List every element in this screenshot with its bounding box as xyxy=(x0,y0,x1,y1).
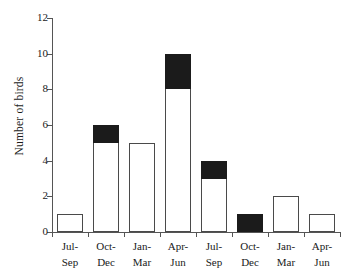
bar-chart: Number of birds 024681012 Jul-SepOct-Dec… xyxy=(0,0,356,280)
x-tick-label-line1: Jan- xyxy=(124,238,160,254)
x-tick-mark xyxy=(232,232,233,237)
x-tick-label-line1: Jul- xyxy=(196,238,232,254)
bar xyxy=(237,214,263,232)
x-tick-label: Apr-Jun xyxy=(304,238,340,270)
x-tick-mark xyxy=(268,232,269,237)
x-tick-label-line2: Dec xyxy=(88,254,124,270)
bar xyxy=(201,161,227,232)
plot-area: 024681012 xyxy=(52,18,340,232)
x-tick-label-line1: Apr- xyxy=(304,238,340,254)
bar xyxy=(165,54,191,232)
x-tick-label-line1: Jul- xyxy=(52,238,88,254)
bars-layer xyxy=(52,18,340,232)
x-tick-mark xyxy=(340,232,341,237)
y-tick-label: 4 xyxy=(43,153,49,168)
bar-filled-segment xyxy=(237,214,263,232)
y-tick-label: 2 xyxy=(43,188,49,203)
y-axis-title: Number of birds xyxy=(10,0,28,232)
x-tick-label: Oct-Dec xyxy=(88,238,124,270)
x-tick-mark xyxy=(88,232,89,237)
x-tick-mark xyxy=(52,232,53,237)
x-tick-label-line2: Mar xyxy=(268,254,304,270)
bar-filled-segment xyxy=(165,54,191,90)
x-tick-label-line1: Oct- xyxy=(88,238,124,254)
y-tick-label: 12 xyxy=(37,10,48,25)
bar xyxy=(273,196,299,232)
y-tick-label: 0 xyxy=(43,224,49,239)
y-tick-label: 8 xyxy=(43,81,49,96)
x-tick-label-line2: Jun xyxy=(304,254,340,270)
x-tick-label: Apr-Jun xyxy=(160,238,196,270)
x-tick-label-line1: Oct- xyxy=(232,238,268,254)
x-tick-label-line2: Jun xyxy=(160,254,196,270)
bar xyxy=(129,143,155,232)
bar xyxy=(93,125,119,232)
bar xyxy=(309,214,335,232)
x-tick-label: Jul-Sep xyxy=(196,238,232,270)
x-tick-mark xyxy=(304,232,305,237)
x-tick-mark xyxy=(124,232,125,237)
x-tick-label: Oct-Dec xyxy=(232,238,268,270)
bar xyxy=(57,214,83,232)
y-tick-label: 10 xyxy=(37,46,48,61)
x-tick-mark xyxy=(196,232,197,237)
x-tick-label: Jul-Sep xyxy=(52,238,88,270)
bar-filled-segment xyxy=(201,161,227,179)
bar-filled-segment xyxy=(93,125,119,143)
x-tick-label-line2: Mar xyxy=(124,254,160,270)
x-tick-mark xyxy=(160,232,161,237)
x-tick-label: Jan-Mar xyxy=(124,238,160,270)
x-tick-label: Jan-Mar xyxy=(268,238,304,270)
x-tick-label-line2: Sep xyxy=(196,254,232,270)
x-tick-label-line1: Jan- xyxy=(268,238,304,254)
x-tick-label-line1: Apr- xyxy=(160,238,196,254)
x-axis-tick-labels: Jul-SepOct-DecJan-MarApr-JunJul-SepOct-D… xyxy=(52,238,340,280)
x-tick-label-line2: Dec xyxy=(232,254,268,270)
x-tick-label-line2: Sep xyxy=(52,254,88,270)
y-tick-label: 6 xyxy=(43,117,49,132)
